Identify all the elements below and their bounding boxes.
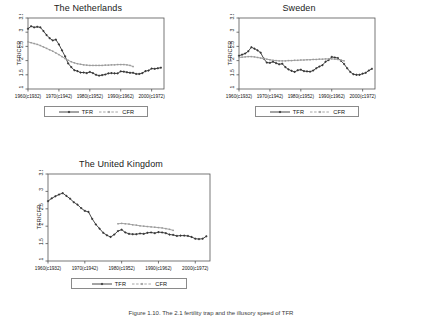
y-axis-tick-label: 3.5 (38, 170, 44, 175)
data-point (248, 56, 250, 58)
data-point (362, 73, 364, 75)
data-point (158, 227, 160, 229)
y-axis-tick-label: 1 (229, 85, 235, 88)
series-line-cfr (118, 223, 173, 230)
data-point (139, 232, 141, 234)
data-point (161, 231, 163, 233)
data-point (187, 235, 189, 237)
series-line-tfr (28, 26, 161, 75)
data-point (71, 61, 73, 63)
data-point (169, 229, 171, 231)
data-point (128, 223, 130, 225)
legend-item-tfr[interactable]: TFR (58, 109, 93, 115)
data-point (161, 227, 163, 229)
x-axis-tick-label: 1990(c1962) (108, 94, 135, 99)
series-markers-cfr (27, 41, 134, 67)
data-point (257, 57, 259, 59)
data-point (154, 68, 156, 70)
data-point (309, 71, 311, 73)
data-point (306, 70, 308, 72)
data-point (110, 72, 112, 74)
y-axis-tick-label: 1 (18, 85, 24, 88)
panel-title: The United Kingdom (28, 158, 214, 170)
data-point (334, 58, 336, 60)
data-point (86, 72, 88, 74)
data-point (150, 231, 152, 233)
x-axis-tick-label: 1970(c1942) (72, 266, 99, 271)
data-point (55, 52, 57, 54)
data-point (309, 59, 311, 61)
data-point (135, 233, 137, 235)
series-line-cfr (28, 42, 133, 67)
data-point (288, 60, 290, 62)
chart-panel: Sweden11.522.533.51960(c1932)1970(c1942)… (219, 2, 379, 102)
data-point (278, 60, 280, 62)
data-point (101, 74, 103, 76)
data-point (241, 54, 243, 56)
plot-area: 11.522.533.51960(c1932)1970(c1942)1980(c… (28, 170, 214, 274)
y-axis-tick-label: 3.5 (18, 14, 24, 19)
data-point (244, 56, 246, 58)
data-point (263, 58, 265, 60)
data-point (121, 223, 123, 225)
y-axis-tick-label: 1.5 (18, 69, 24, 76)
legend-item-cfr[interactable]: CFR (98, 109, 134, 115)
data-point (136, 224, 138, 226)
data-point (183, 234, 185, 236)
legend-swatch-cfr (131, 281, 153, 287)
data-point (33, 26, 35, 28)
panel-title: Sweden (219, 2, 379, 14)
data-point (291, 60, 293, 62)
series-markers-tfr (27, 25, 162, 77)
data-point (146, 232, 148, 234)
y-axis-title: TFR/CFR (16, 36, 22, 70)
data-point (105, 64, 107, 66)
legend-item-tfr[interactable]: TFR (91, 281, 126, 287)
data-point (52, 50, 54, 52)
data-point (95, 65, 97, 67)
y-axis-tick-label: 3 (229, 29, 235, 32)
data-point (123, 71, 125, 73)
x-axis-tick-label: 1960(c1932) (15, 94, 42, 99)
x-axis-tick-label: 1960(c1932) (226, 94, 253, 99)
data-point (129, 72, 131, 74)
data-point (172, 234, 174, 236)
data-point (77, 63, 79, 65)
data-point (238, 57, 240, 59)
data-point (120, 64, 122, 66)
legend-label-cfr: CFR (122, 109, 134, 115)
data-point (285, 60, 287, 62)
plot-area: 11.522.533.51960(c1932)1970(c1942)1980(c… (8, 14, 168, 102)
legend-label-tfr: TFR (115, 281, 126, 287)
legend-item-cfr[interactable]: CFR (131, 281, 167, 287)
data-point (33, 43, 35, 45)
legend-swatch-cfr (98, 109, 120, 115)
data-point (126, 71, 128, 73)
data-point (37, 44, 39, 46)
data-point (251, 56, 253, 58)
data-point (312, 59, 314, 61)
data-point (272, 60, 274, 62)
data-point (113, 72, 115, 74)
data-point (294, 60, 296, 62)
data-point (132, 233, 134, 235)
data-point (40, 45, 42, 47)
data-point (154, 232, 156, 234)
data-point (46, 48, 48, 50)
series-markers-cfr (117, 223, 174, 231)
legend-item-tfr[interactable]: TFR (269, 109, 304, 115)
data-point (282, 60, 284, 62)
data-point (238, 55, 240, 57)
legend-swatch-cfr (309, 109, 331, 115)
data-point (300, 59, 302, 61)
legend-swatch-tfr (91, 281, 113, 287)
legend-item-cfr[interactable]: CFR (309, 109, 345, 115)
data-point (269, 59, 271, 61)
data-point (135, 73, 137, 75)
data-point (179, 234, 181, 236)
data-point (143, 233, 145, 235)
data-point (27, 41, 29, 43)
data-point (260, 57, 262, 59)
data-point (306, 59, 308, 61)
data-point (154, 226, 156, 228)
